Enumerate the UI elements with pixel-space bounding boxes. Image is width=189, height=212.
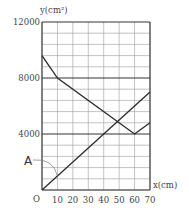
x-tick-label: 40 bbox=[98, 195, 109, 205]
origin-label: O bbox=[33, 194, 40, 204]
y-tick-labels: 4000800012000 bbox=[13, 17, 40, 139]
annotations: A bbox=[24, 154, 57, 176]
x-tick-label: 30 bbox=[83, 195, 94, 205]
x-tick-label: 70 bbox=[145, 195, 156, 205]
series-line-unlabeled bbox=[42, 56, 150, 134]
series-label-a: A bbox=[24, 154, 33, 168]
x-tick-label: 60 bbox=[129, 195, 140, 205]
x-tick-label: 10 bbox=[52, 195, 63, 205]
x-axis-title: x(cm) bbox=[153, 180, 177, 190]
line-chart: y(cm²) x(cm) O 10203040506070 4000800012… bbox=[0, 0, 189, 212]
y-tick-label: 8000 bbox=[18, 73, 40, 83]
y-tick-label: 12000 bbox=[13, 17, 40, 27]
chart-labels: y(cm²) x(cm) O bbox=[33, 5, 177, 204]
x-tick-label: 50 bbox=[114, 195, 125, 205]
y-axis-title: y(cm²) bbox=[39, 5, 68, 15]
x-tick-label: 20 bbox=[67, 195, 78, 205]
y-tick-label: 4000 bbox=[18, 129, 40, 139]
x-tick-labels: 10203040506070 bbox=[52, 195, 155, 205]
